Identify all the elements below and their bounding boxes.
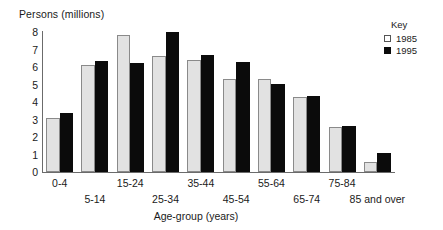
- legend-item-1985: 1985: [384, 34, 417, 44]
- x-axis-tick-label: 0-4: [52, 178, 67, 189]
- x-axis-tick-label: 15-24: [117, 178, 144, 189]
- legend: Key 1985 1995: [384, 20, 417, 59]
- legend-swatch-1985-icon: [384, 35, 391, 42]
- x-axis-title: Age-group (years): [154, 210, 239, 222]
- x-axis-tick-labels: 0-45-1415-2425-3435-4445-5455-6465-7475-…: [0, 0, 443, 230]
- x-axis-tick-label: 75-84: [329, 178, 356, 189]
- legend-title: Key: [384, 20, 417, 30]
- x-axis-tick-label: 25-34: [152, 194, 179, 205]
- x-axis-tick-label: 65-74: [293, 194, 320, 205]
- legend-item-1995: 1995: [384, 46, 417, 56]
- x-axis-tick-label: 45-54: [223, 194, 250, 205]
- x-axis-tick-label: 5-14: [84, 194, 105, 205]
- legend-label-1995: 1995: [396, 46, 417, 56]
- x-axis-tick-label: 35-44: [187, 178, 214, 189]
- legend-swatch-1995-icon: [384, 47, 391, 54]
- x-axis-tick-label: 85 and over: [350, 194, 405, 205]
- bar-chart: Persons (millions) 876543210 0-45-1415-2…: [0, 0, 443, 230]
- x-axis-tick-label: 55-64: [258, 178, 285, 189]
- legend-label-1985: 1985: [396, 34, 417, 44]
